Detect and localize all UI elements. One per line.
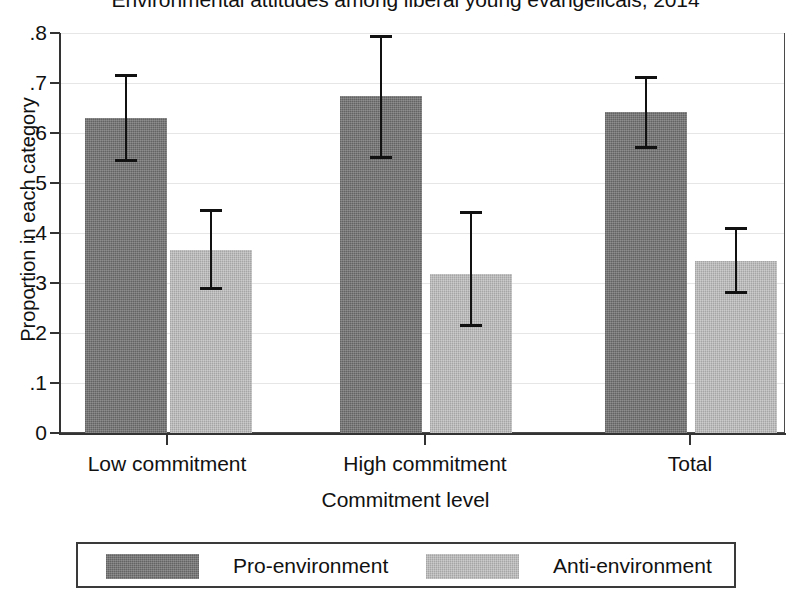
error-bar-cap-lower <box>635 146 657 149</box>
error-bar-stem <box>125 75 128 160</box>
error-bar-cap-upper <box>725 227 747 230</box>
error-bar-cap-lower <box>115 159 137 162</box>
legend-item[interactable]: Pro-environment <box>106 552 388 580</box>
bar-pro <box>605 112 687 434</box>
error-bar-cap-lower <box>460 324 482 327</box>
y-tick <box>50 282 60 284</box>
x-tick-label: Total <box>540 452 811 476</box>
y-axis-title: Proportion in each category <box>17 10 40 430</box>
error-bar-stem <box>645 77 648 147</box>
x-tick <box>689 434 691 445</box>
error-bar-cap-lower <box>370 156 392 159</box>
chart-title: Environmental attitudes among liberal yo… <box>0 0 811 12</box>
error-bar-cap-upper <box>460 211 482 214</box>
x-tick-label: High commitment <box>275 452 575 476</box>
error-bar-cap-upper <box>635 76 657 79</box>
error-bar-cap-lower <box>725 291 747 294</box>
gridline <box>61 83 784 84</box>
y-tick <box>50 132 60 134</box>
legend-swatch <box>106 554 199 579</box>
bar-pro <box>85 118 167 433</box>
y-tick <box>50 82 60 84</box>
y-tick <box>50 32 60 34</box>
x-axis-title: Commitment level <box>0 488 811 512</box>
error-bar-cap-upper <box>200 209 222 212</box>
error-bar-stem <box>735 228 738 293</box>
y-tick <box>50 382 60 384</box>
error-bar-stem <box>380 37 383 158</box>
x-axis-line <box>59 433 786 435</box>
y-tick <box>50 232 60 234</box>
x-tick-label: Low commitment <box>17 452 317 476</box>
y-tick <box>50 332 60 334</box>
legend: Pro-environmentAnti-environment <box>76 542 736 588</box>
x-tick <box>424 434 426 445</box>
chart-root: Environmental attitudes among liberal yo… <box>0 0 811 598</box>
x-tick <box>166 434 168 445</box>
legend-item[interactable]: Anti-environment <box>426 552 712 580</box>
error-bar-cap-upper <box>115 74 137 77</box>
legend-swatch <box>426 554 519 579</box>
error-bar-stem <box>210 211 213 289</box>
error-bar-cap-lower <box>200 287 222 290</box>
gridline <box>61 33 784 34</box>
legend-label: Anti-environment <box>553 554 712 578</box>
legend-label: Pro-environment <box>233 554 388 578</box>
error-bar-cap-upper <box>370 35 392 38</box>
y-tick <box>50 182 60 184</box>
error-bar-stem <box>470 213 473 326</box>
